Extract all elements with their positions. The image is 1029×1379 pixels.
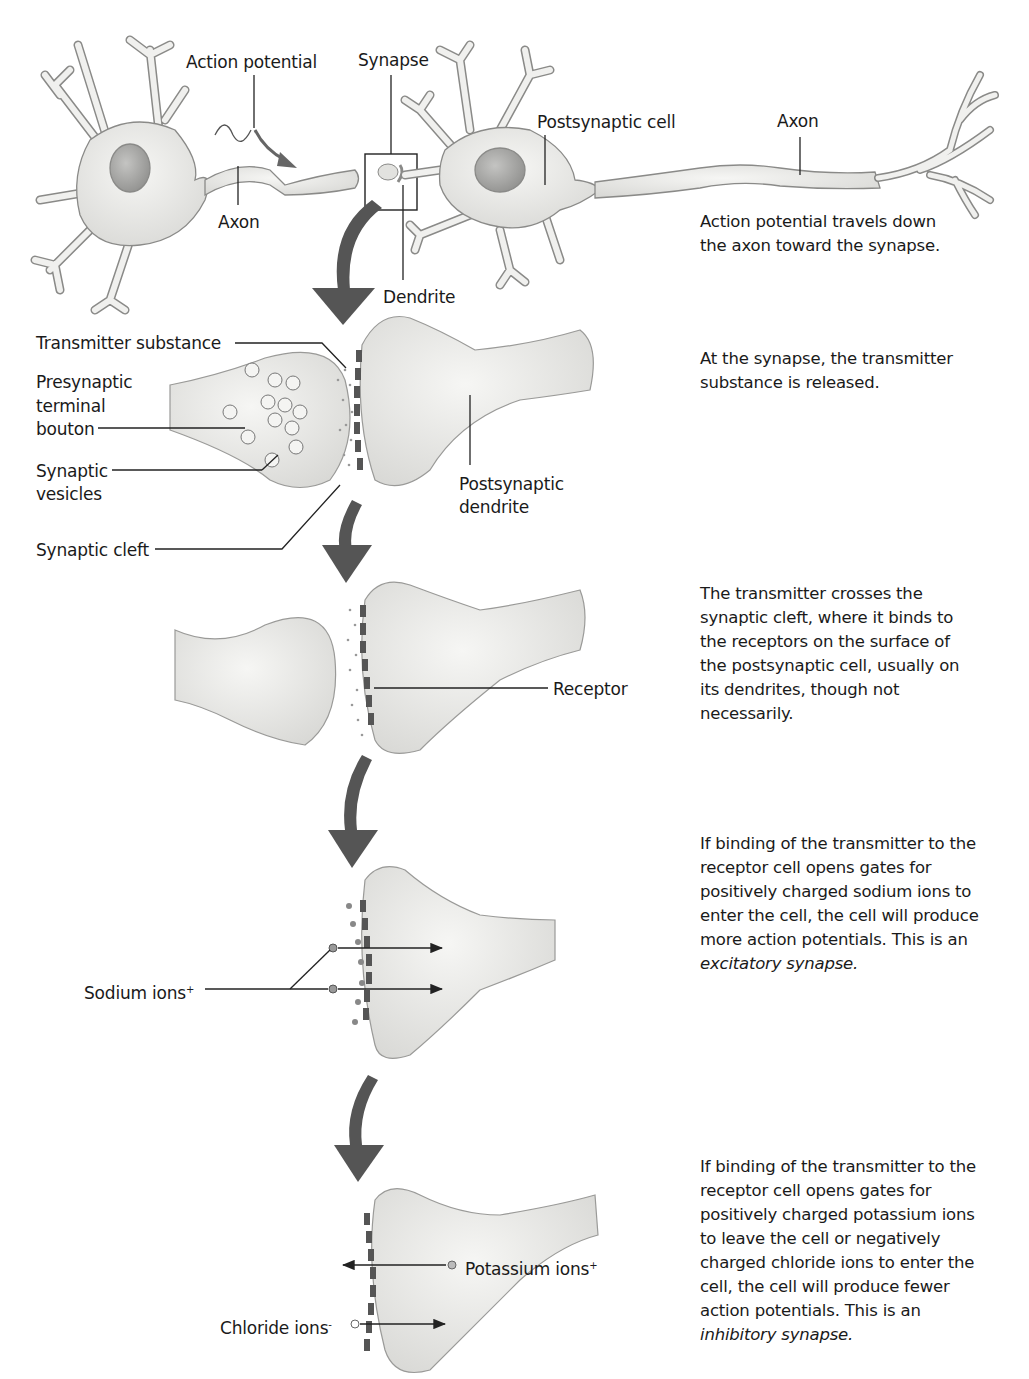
presynaptic-bouton-3 <box>175 618 336 745</box>
description-excitatory: If binding of the transmitter to the rec… <box>700 832 995 976</box>
label-action-potential: Action potential <box>186 52 317 72</box>
presynaptic-bouton <box>170 352 350 487</box>
label-axon-left: Axon <box>218 212 260 232</box>
label-dendrite-2: dendrite <box>459 497 529 517</box>
label-terminal: terminal <box>36 396 105 416</box>
term-inhibitory: inhibitory synapse. <box>700 1325 853 1344</box>
description-inhibitory: If binding of the transmitter to the rec… <box>700 1155 995 1347</box>
label-bouton: bouton <box>36 419 95 439</box>
potassium-ion <box>448 1261 456 1269</box>
label-synaptic-cleft: Synaptic cleft <box>36 540 149 560</box>
description-release: At the synapse, the transmitter substanc… <box>700 347 970 395</box>
postsynaptic-dendrite-2 <box>360 317 593 486</box>
chloride-ion <box>351 1320 359 1328</box>
label-axon-right: Axon <box>777 111 819 131</box>
postsynaptic-dendrite-4 <box>362 867 555 1059</box>
sodium-ion <box>329 985 337 993</box>
label-postsynaptic-cell: Postsynaptic cell <box>537 112 675 132</box>
label-sodium-ions: Sodium ions+ <box>84 980 194 1003</box>
label-chloride-ions: Chloride ions- <box>220 1315 332 1338</box>
description-action-potential: Action potential travels down the axon t… <box>700 210 960 258</box>
description-binding: The transmitter crosses the synaptic cle… <box>700 582 980 726</box>
label-dendrite: Dendrite <box>383 287 455 307</box>
postsynaptic-dendrite-5 <box>372 1189 598 1373</box>
postsynaptic-dendrite-3 <box>362 582 585 753</box>
sodium-ion <box>329 944 337 952</box>
label-presynaptic: Presynaptic <box>36 372 132 392</box>
presynaptic-neuron <box>35 40 359 310</box>
term-excitatory: excitatory synapse. <box>700 954 858 973</box>
label-postsynaptic: Postsynaptic <box>459 474 564 494</box>
label-transmitter-substance: Transmitter substance <box>36 333 221 353</box>
label-synaptic: Synaptic <box>36 461 108 481</box>
label-vesicles: vesicles <box>36 484 102 504</box>
action-potential-wave <box>215 125 251 141</box>
label-potassium-ions: Potassium ions+ <box>465 1256 597 1279</box>
label-synapse: Synapse <box>358 50 429 70</box>
label-receptor: Receptor <box>553 679 628 699</box>
